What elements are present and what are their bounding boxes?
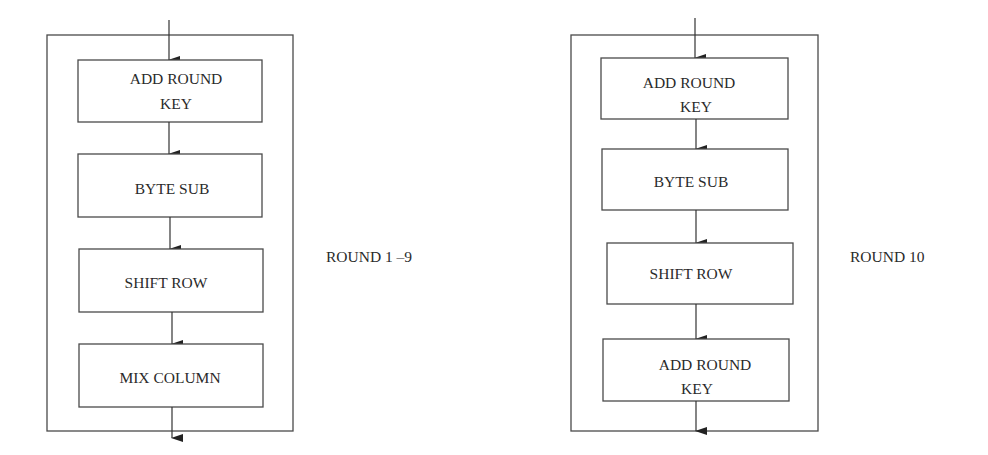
step-shift-row: SHIFT ROW — [607, 243, 793, 304]
round-10-diagram: ADD ROUND KEY BYTE SUB SHIFT ROW ADD ROU… — [571, 18, 818, 431]
step-mix-column: MIX COLUMN — [79, 344, 263, 407]
step-label-line: SHIFT ROW — [650, 265, 733, 282]
step-byte-sub: BYTE SUB — [78, 154, 262, 217]
round-1-9-diagram: ADD ROUND KEY BYTE SUB SHIFT ROW MIX COL… — [47, 20, 293, 438]
step-label-line: SHIFT ROW — [125, 274, 208, 291]
round-label: ROUND 10 — [850, 248, 925, 265]
step-label-line: BYTE SUB — [135, 180, 210, 197]
step-add-round-key-final: ADD ROUND KEY — [603, 339, 789, 401]
step-add-round-key: ADD ROUND KEY — [601, 58, 788, 119]
step-label-line: KEY — [680, 98, 712, 115]
step-label-line: ADD ROUND — [659, 356, 752, 373]
aes-round-diagrams: ADD ROUND KEY BYTE SUB SHIFT ROW MIX COL… — [0, 0, 988, 455]
step-add-round-key: ADD ROUND KEY — [78, 60, 262, 122]
step-label-line: ADD ROUND — [643, 74, 736, 91]
step-label-line: ADD ROUND — [130, 70, 223, 87]
step-label-line: MIX COLUMN — [119, 369, 220, 386]
step-byte-sub: BYTE SUB — [602, 149, 788, 210]
step-label-line: KEY — [160, 95, 192, 112]
step-shift-row: SHIFT ROW — [79, 249, 263, 312]
step-label-line: BYTE SUB — [654, 173, 729, 190]
step-label-line: KEY — [681, 380, 713, 397]
round-label: ROUND 1 –9 — [326, 248, 412, 265]
